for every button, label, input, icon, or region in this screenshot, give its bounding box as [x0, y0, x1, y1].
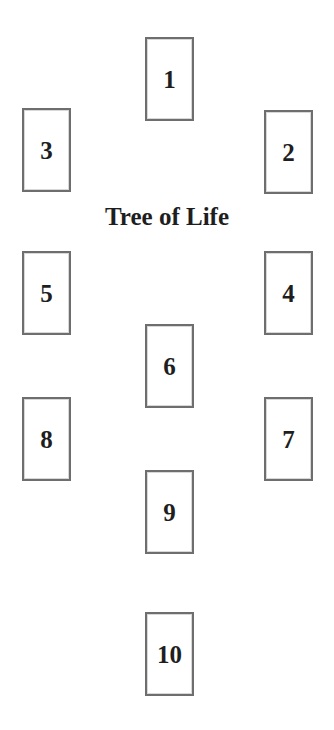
card-number: 7 [282, 427, 295, 452]
spread-title: Tree of Life [0, 204, 334, 229]
card-position-2[interactable]: 2 [264, 110, 313, 194]
card-number: 8 [40, 427, 53, 452]
card-position-6[interactable]: 6 [145, 324, 194, 408]
card-position-9[interactable]: 9 [145, 470, 194, 554]
card-position-4[interactable]: 4 [264, 251, 313, 335]
card-number: 6 [163, 354, 176, 379]
card-number: 5 [40, 281, 53, 306]
card-position-3[interactable]: 3 [22, 108, 71, 192]
card-number: 9 [163, 500, 176, 525]
card-position-7[interactable]: 7 [264, 397, 313, 481]
card-number: 10 [157, 642, 182, 667]
card-position-8[interactable]: 8 [22, 397, 71, 481]
card-number: 1 [163, 67, 176, 92]
card-number: 2 [282, 140, 295, 165]
card-position-10[interactable]: 10 [145, 612, 194, 696]
card-number: 3 [40, 138, 53, 163]
card-position-5[interactable]: 5 [22, 251, 71, 335]
card-number: 4 [282, 281, 295, 306]
card-position-1[interactable]: 1 [145, 37, 194, 121]
